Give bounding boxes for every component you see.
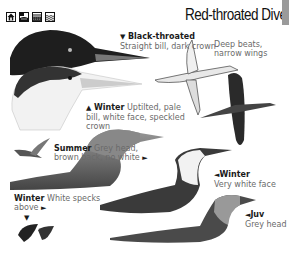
summer-annotation: Summer Grey head, brown back, no white ► bbox=[54, 144, 148, 163]
winter-specks-text-1: White specks bbox=[44, 194, 100, 203]
summer-text-1: Grey head, bbox=[92, 144, 139, 153]
down-arrow-icon: ▼ bbox=[120, 33, 125, 41]
winter-head-text-2: bill, white face, speckled bbox=[86, 113, 185, 122]
summer-text-2: brown back, no white bbox=[54, 153, 140, 162]
winter-head-annotation: ▲ Winter Uptilted, pale bill, white face… bbox=[86, 103, 185, 132]
black-throated-annotation: ▼ Black-throated Straight bill, dark cro… bbox=[120, 32, 216, 51]
right-arrow-icon: ► bbox=[41, 204, 46, 212]
summer-label: Summer bbox=[54, 144, 92, 153]
winter-specks-label: Winter bbox=[14, 194, 44, 203]
juv-text: Grey head bbox=[245, 220, 286, 229]
winter-specks-annotation: Winter White specks above ► ▼ bbox=[14, 194, 100, 224]
juv-annotation: ◄Juv Grey head bbox=[245, 210, 286, 229]
right-arrow-icon: ► bbox=[142, 154, 147, 162]
winter-body-label: Winter bbox=[219, 170, 249, 179]
juv-label: Juv bbox=[250, 210, 264, 219]
black-throated-label: Black-throated bbox=[128, 32, 195, 41]
winter-head-text-1: Uptilted, pale bbox=[124, 103, 180, 112]
winter-body-annotation: ◄Winter Very white face bbox=[214, 170, 276, 189]
black-throated-text: Straight bill, dark crown bbox=[120, 42, 216, 51]
flight-text-2: narrow wings bbox=[214, 49, 267, 58]
winter-specks-text-2: above bbox=[14, 203, 39, 212]
down-arrow-icon: ▼ bbox=[24, 214, 29, 222]
winter-head-label: Winter bbox=[94, 103, 124, 112]
winter-head-text-3: crown bbox=[86, 122, 110, 131]
flight-annotation: Deep beats, narrow wings bbox=[214, 40, 267, 58]
flight-text-1: Deep beats, bbox=[214, 40, 262, 49]
winter-body-text: Very white face bbox=[214, 180, 276, 189]
up-arrow-icon: ▲ bbox=[86, 104, 91, 112]
